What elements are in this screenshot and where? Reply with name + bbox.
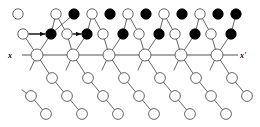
chain-nodes-layer: [26, 73, 253, 120]
side-chain-node-open-circle: [83, 73, 94, 84]
axis-label-x-prime: x': [239, 51, 247, 60]
top-node-open-circle: [159, 9, 169, 19]
top-node-open-circle: [51, 9, 61, 19]
upper-node-open-circle: [206, 29, 216, 39]
top-node-open-circle: [195, 9, 205, 19]
main-chain-node-open-circle: [211, 49, 223, 61]
side-chain-node-open-circle: [47, 73, 58, 84]
side-chain-node-open-circle: [155, 73, 166, 84]
side-chain-node-open-circle: [41, 109, 52, 120]
top-node-filled-circle: [105, 9, 115, 19]
top-node-open-circle: [123, 9, 133, 19]
top-nodes-layer: [13, 9, 241, 19]
upper-node-filled-circle: [190, 29, 200, 39]
top-node-open-circle: [13, 9, 23, 19]
top-node-filled-circle: [141, 9, 151, 19]
side-chain-node-open-circle: [185, 109, 196, 120]
main-chain-node-open-circle: [67, 49, 79, 61]
upper-node-open-circle: [18, 29, 28, 39]
axis-label-x: x: [7, 51, 12, 60]
side-chain-node-open-circle: [170, 91, 181, 102]
side-chain-node-open-circle: [77, 109, 88, 120]
side-chain-node-open-circle: [242, 91, 253, 102]
side-chain-node-open-circle: [221, 109, 232, 120]
top-node-open-circle: [87, 9, 97, 19]
upper-node-filled-circle: [226, 29, 236, 39]
upper-node-filled-circle: [154, 29, 164, 39]
side-chain-node-open-circle: [191, 73, 202, 84]
upper-node-filled-circle: [118, 29, 128, 39]
side-chain-node-open-circle: [113, 109, 124, 120]
upper-node-filled-circle: [46, 29, 56, 39]
side-chain-node-open-circle: [227, 73, 238, 84]
top-node-filled-circle: [177, 9, 187, 19]
side-chain-node-open-circle: [149, 109, 160, 120]
top-node-filled-circle: [213, 9, 223, 19]
main-chain-node-open-circle: [139, 49, 151, 61]
main-chain-node-open-circle: [31, 49, 43, 61]
side-chain-node-open-circle: [206, 91, 217, 102]
side-chain-node-open-circle: [98, 91, 109, 102]
main-chain-node-open-circle: [175, 49, 187, 61]
upper-node-filled-circle: [82, 29, 92, 39]
upper-mid-nodes-layer: [18, 29, 236, 39]
top-node-filled-circle: [231, 9, 241, 19]
side-chain-node-open-circle: [134, 91, 145, 102]
side-chain-node-open-circle: [26, 91, 37, 102]
top-node-filled-circle: [69, 9, 79, 19]
side-chain-node-open-circle: [119, 73, 130, 84]
side-chain-node-open-circle: [62, 91, 73, 102]
upper-node-open-circle: [62, 29, 72, 39]
lattice-diagram-svg: xx': [0, 0, 260, 127]
upper-node-open-circle: [134, 29, 144, 39]
upper-node-open-circle: [98, 29, 108, 39]
main-chain-node-open-circle: [103, 49, 115, 61]
upper-node-open-circle: [170, 29, 180, 39]
lattice-figure: xx': [0, 0, 260, 127]
